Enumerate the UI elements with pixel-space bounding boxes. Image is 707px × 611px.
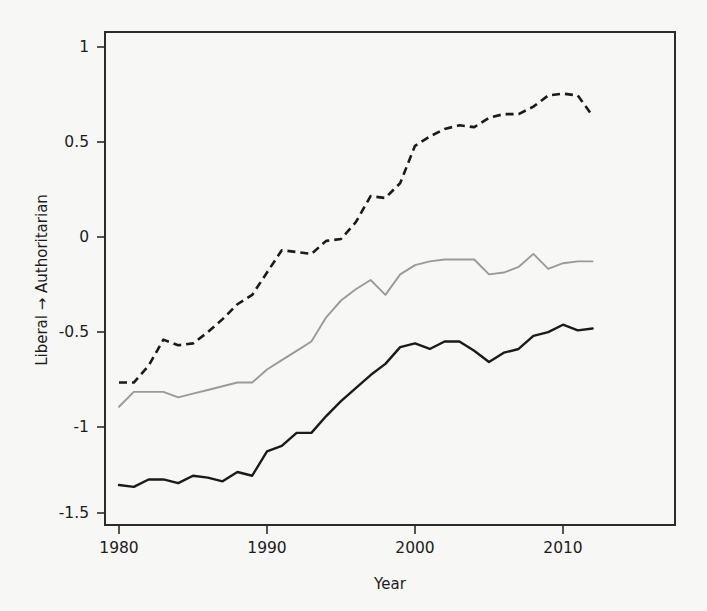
x-axis-title: Year <box>373 575 407 593</box>
y-tick-label-0.5: 0.5 <box>64 133 89 151</box>
y-tick-label-1: 1 <box>79 38 89 56</box>
x-tick-label-2000: 2000 <box>395 539 434 557</box>
line-chart-figure: 1 0.5 0 -0.5 -1 -1.5 1980 1990 2000 2010… <box>0 0 707 611</box>
x-tick-label-2010: 2010 <box>543 539 582 557</box>
chart-svg: 1 0.5 0 -0.5 -1 -1.5 1980 1990 2000 2010… <box>0 0 707 611</box>
chart-screenshot: 1 0.5 0 -0.5 -1 -1.5 1980 1990 2000 2010… <box>0 0 707 611</box>
x-tick-label-1980: 1980 <box>99 539 138 557</box>
y-tick-label-neg1: -1 <box>74 418 89 436</box>
y-axis-title: Liberal → Authoritarian <box>33 194 51 366</box>
y-tick-label-neg1.5: -1.5 <box>59 504 89 522</box>
y-tick-label-neg0.5: -0.5 <box>59 323 89 341</box>
y-tick-label-0: 0 <box>79 228 89 246</box>
x-tick-label-1990: 1990 <box>247 539 286 557</box>
figure-background <box>0 0 707 611</box>
